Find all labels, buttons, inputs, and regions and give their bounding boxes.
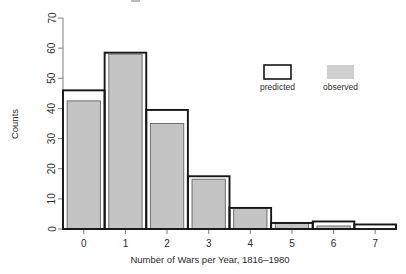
y-tick-label: 0: [47, 226, 58, 232]
legend-swatch-observed-icon: [327, 65, 354, 79]
x-tick-label: 6: [331, 238, 337, 249]
x-tick-label: 1: [123, 238, 129, 249]
y-tick-label: 40: [47, 102, 58, 114]
y-tick-label: 50: [47, 72, 58, 84]
y-tick-label: 60: [47, 42, 58, 54]
y-tick-label: 70: [47, 12, 58, 24]
x-tick-label: 7: [372, 238, 378, 249]
legend-label-observed: observed: [323, 82, 358, 92]
y-axis-tick-labels: 010203040506070: [47, 12, 58, 232]
histogram-plot: 010203040506070 01234567 Counts Number o…: [0, 0, 406, 274]
observed-bar: [150, 124, 183, 230]
y-tick-label: 10: [47, 193, 58, 205]
observed-bar: [234, 208, 267, 229]
y-axis-title: Counts: [9, 109, 20, 139]
y-tick-label: 20: [47, 163, 58, 175]
observed-bar: [109, 54, 142, 229]
x-tick-label: 4: [248, 238, 254, 249]
observed-bar: [192, 179, 225, 229]
observed-bar: [67, 101, 100, 229]
x-axis-tick-labels: 01234567: [81, 238, 378, 249]
observed-bars: [67, 54, 350, 229]
legend-swatch-predicted-icon: [264, 65, 291, 79]
y-tick-label: 30: [47, 133, 58, 145]
x-tick-label: 0: [81, 238, 87, 249]
x-axis-title: Number of Wars per Year, 1816–1980: [130, 254, 289, 265]
legend-label-predicted: predicted: [260, 82, 295, 92]
predicted-bar: [354, 224, 396, 229]
chart-legend: predicted observed: [260, 65, 358, 92]
x-tick-label: 5: [289, 238, 295, 249]
x-tick-label: 2: [164, 238, 170, 249]
scan-artifact: [131, 0, 140, 2]
chart-figure: 010203040506070 01234567 Counts Number o…: [0, 0, 406, 274]
x-tick-label: 3: [206, 238, 212, 249]
